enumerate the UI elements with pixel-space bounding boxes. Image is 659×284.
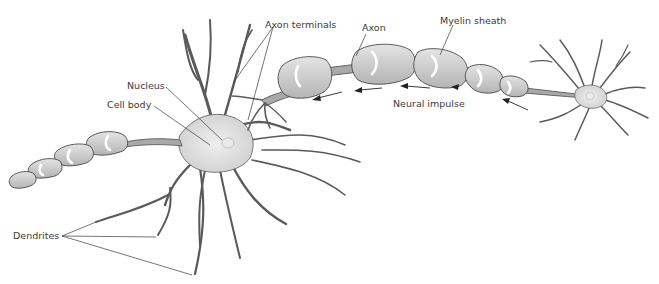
label-myelin-sheath: Myelin sheath (440, 16, 506, 26)
right-neuron (530, 40, 648, 140)
label-cell-body: Cell body (107, 100, 151, 110)
neuron-diagram (0, 0, 659, 284)
label-nucleus: Nucleus (127, 81, 165, 91)
left-axon (125, 139, 182, 147)
label-axon: Axon (362, 23, 386, 33)
label-neural-impulse: Neural impulse (393, 99, 465, 109)
label-axon-terminals: Axon terminals (265, 20, 336, 30)
cell-body-shape (179, 114, 253, 172)
label-dendrites: Dendrites (13, 231, 59, 241)
left-myelin-segments (9, 132, 128, 189)
axon-myelin-chain (278, 44, 585, 98)
nucleus-shape (222, 138, 234, 148)
